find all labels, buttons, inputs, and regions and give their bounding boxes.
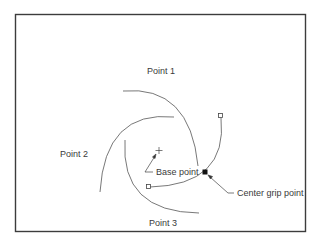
label-point2: Point 2 [60, 149, 88, 159]
frame-border [16, 15, 306, 232]
label-center-grip-point: Center grip point [237, 188, 304, 198]
crosshair-icon [156, 147, 163, 154]
filled-square-grip-icon[interactable] [203, 170, 208, 175]
base-point-leader [145, 154, 156, 172]
label-point3: Point 3 [149, 218, 177, 228]
arc-point1 [123, 91, 198, 166]
arc-point2 [100, 116, 174, 192]
center-grip-leader [208, 175, 234, 193]
label-base-point: Base point [156, 167, 199, 177]
hollow-square-grip-icon[interactable] [219, 114, 223, 118]
label-point1: Point 1 [147, 66, 175, 76]
hollow-square-grip-icon[interactable] [147, 185, 151, 189]
rotation-diagram [0, 0, 322, 242]
